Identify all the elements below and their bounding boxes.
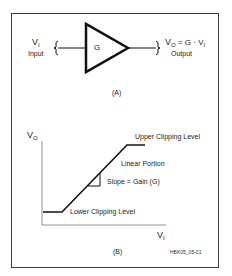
output-caption: Output [171, 50, 192, 57]
panel-a-label: (A) [112, 89, 121, 96]
input-brace-icon [54, 41, 58, 55]
figure-id: HBK05_05-01 [170, 250, 201, 255]
linear-portion-label: Linear Portion [121, 160, 165, 167]
amplifier-triangle-icon [86, 24, 128, 72]
amplifier-gain-label: G [94, 44, 100, 52]
panel-b-label: (B) [113, 248, 122, 255]
input-caption: Input [28, 50, 44, 57]
output-equation: VO = G · VI [165, 38, 205, 48]
x-axis-label: VI [157, 231, 165, 241]
upper-clipping-label: Upper Clipping Level [135, 133, 200, 140]
output-brace-icon [156, 41, 160, 55]
slope-label: Slope = Gain (G) [107, 178, 160, 185]
input-symbol: VI [32, 38, 40, 48]
lower-clipping-label: Lower Clipping Level [70, 208, 135, 215]
y-axis-label: VO [27, 131, 38, 141]
